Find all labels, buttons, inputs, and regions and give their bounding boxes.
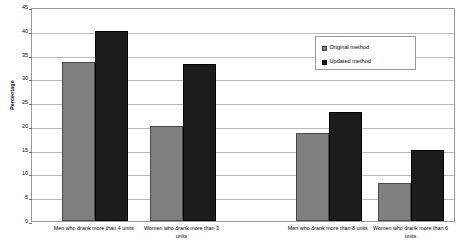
legend-item-label: Updated method [330,59,371,65]
x-axis-category-labels: Men who drank more than 4 unitsWomen who… [31,224,455,250]
y-axis-tick-label: 5 [12,195,28,200]
legend-swatch-icon [322,46,327,51]
y-axis-tick-label: 40 [12,29,28,34]
legend-item: Updated method [322,56,415,68]
x-axis-category-label: Women who drank more than 6 units [371,224,449,240]
bar [62,62,95,221]
bar-chart: Percentage 051015202530354045 Original m… [0,0,461,252]
y-axis-tick-label: 25 [12,100,28,105]
y-axis-tick-label: 45 [12,5,28,10]
legend-item-label: Original method [330,45,370,51]
y-axis-tick-labels: 051015202530354045 [0,0,28,252]
x-axis-category-label: Women who drank more than 3 units [143,224,221,240]
bar [411,150,444,221]
y-axis-tick-label: 15 [12,148,28,153]
y-axis-tick-label: 10 [12,171,28,176]
x-axis-category-label: Men who drank more than 8 units [280,224,376,232]
legend-item: Original method [322,42,415,54]
bar [95,31,128,221]
x-axis-category-label: Men who drank more than 4 units [46,224,142,232]
bar [296,133,329,221]
y-axis-tick-label: 0 [12,219,28,224]
bar [378,183,411,221]
bar [150,126,183,221]
y-axis-tick-label: 20 [12,124,28,129]
y-axis-tick-label: 35 [12,53,28,58]
y-axis-tick-label: 30 [12,76,28,81]
legend-swatch-icon [322,60,327,65]
bar [329,112,362,221]
bar [183,64,216,221]
chart-legend: Original methodUpdated method [315,36,416,70]
